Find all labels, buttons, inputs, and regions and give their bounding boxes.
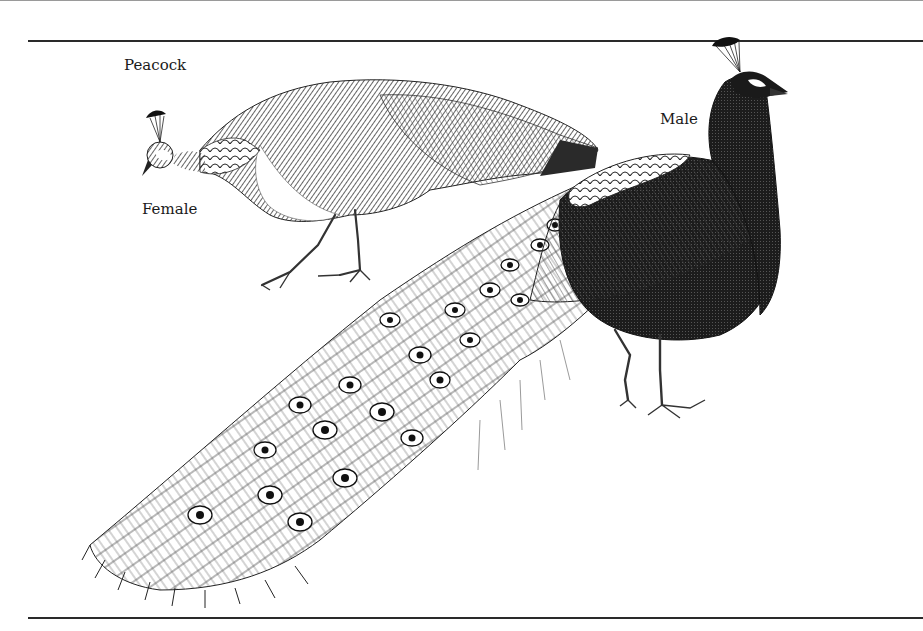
peacock-illustration — [0, 0, 923, 631]
